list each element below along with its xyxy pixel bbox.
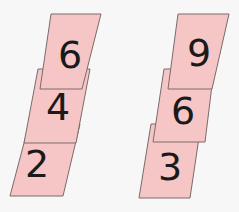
card-digit: 4 (46, 85, 70, 129)
card-digit: 2 (25, 142, 49, 186)
card-digit: 9 (187, 31, 211, 75)
card-digit: 6 (58, 33, 82, 77)
card-right-top: 9 (168, 14, 229, 89)
left-stack: 2 4 6 (10, 14, 101, 196)
right-stack: 3 6 9 (139, 14, 229, 198)
card-digit: 6 (171, 89, 195, 133)
card-stacks-scene: 2 4 6 3 6 9 (0, 0, 239, 212)
card-left-top: 6 (40, 14, 101, 89)
card-digit: 3 (158, 145, 182, 189)
